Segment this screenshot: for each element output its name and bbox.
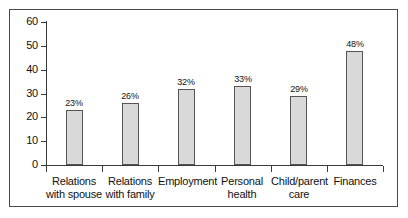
x-axis-tick <box>102 166 103 172</box>
y-axis-tick <box>41 141 47 142</box>
bar-value-label: 32% <box>162 77 210 87</box>
x-axis-category-label: Relations with spouse <box>46 175 102 201</box>
x-axis-category-label: Finances <box>327 175 383 188</box>
x-axis-tick <box>46 166 47 172</box>
x-axis-tick <box>215 166 216 172</box>
bar-value-label: 23% <box>50 98 98 108</box>
y-axis-tick-label: 50 <box>0 40 38 51</box>
bar <box>122 103 139 165</box>
bar <box>66 110 83 165</box>
bar <box>290 96 307 165</box>
x-axis-tick <box>158 166 159 172</box>
y-axis-tick <box>41 46 47 47</box>
y-axis-tick-label: 20 <box>0 111 38 122</box>
bar-value-label: 48% <box>331 39 379 49</box>
y-axis-tick <box>41 70 47 71</box>
x-axis-category-label: Personal health <box>214 175 270 201</box>
bar-value-label: 26% <box>106 91 154 101</box>
x-axis-category-label: Employment <box>158 175 214 188</box>
bar <box>234 86 251 165</box>
y-axis-tick <box>41 117 47 118</box>
bar-value-label: 33% <box>219 74 267 84</box>
y-axis-tick <box>41 22 47 23</box>
x-axis-category-label: Relations with family <box>102 175 158 201</box>
bar-chart-figure: 0102030405060 23%26%32%33%29%48% Relatio… <box>0 0 408 218</box>
bar <box>178 89 195 165</box>
y-axis-tick <box>41 94 47 95</box>
bar-value-label: 29% <box>275 84 323 94</box>
y-axis-tick-label: 10 <box>0 135 38 146</box>
x-axis-category-label: Child/parent care <box>271 175 327 201</box>
y-axis-tick-label: 0 <box>0 159 38 170</box>
x-axis-tick <box>271 166 272 172</box>
y-axis-tick-label: 40 <box>0 64 38 75</box>
y-axis-tick-label: 30 <box>0 88 38 99</box>
y-axis-tick-label: 60 <box>0 16 38 27</box>
bar <box>346 51 363 165</box>
x-axis-tick <box>327 166 328 172</box>
x-axis-tick <box>383 166 384 172</box>
